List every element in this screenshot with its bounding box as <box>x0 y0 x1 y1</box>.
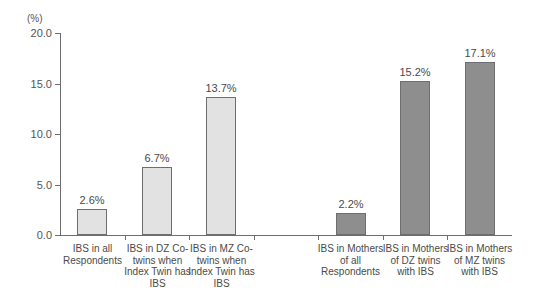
y-axis-tick-label-wrap: 5.0 <box>0 179 52 191</box>
x-axis-category-label-line: IBS in DZ Co- <box>123 243 192 255</box>
x-axis-category-label-line: IBS in MZ Co- <box>187 243 256 255</box>
x-axis-category-label: IBS in Mothersof allRespondents <box>316 243 385 278</box>
bar <box>400 81 430 235</box>
y-axis-tick-label-wrap: 0.0 <box>0 229 52 241</box>
bar-value-label: 2.2% <box>321 198 381 210</box>
x-axis-category-label-line: of DZ twins <box>381 255 450 267</box>
bar-value-label: 15.2% <box>385 66 445 78</box>
y-axis-tick-label: 15.0 <box>2 78 52 90</box>
x-axis-category-label-line: IBS in Mothers <box>316 243 385 255</box>
bar-chart: (%) 0.05.010.015.020.0 2.6%6.7%13.7%2.2%… <box>0 0 533 301</box>
x-axis-tick <box>447 235 448 240</box>
y-axis-unit-label: (%) <box>27 13 43 24</box>
x-axis-tick <box>318 235 319 240</box>
bar <box>142 167 172 235</box>
x-axis-category-label: IBS in allRespondents <box>58 243 127 266</box>
x-axis-category-label-line: with IBS <box>445 266 514 278</box>
x-axis-line <box>60 235 512 236</box>
x-axis-category-label-line: with IBS <box>381 266 450 278</box>
x-axis-category-label-line: twins when <box>187 255 256 267</box>
x-axis-category-label-line: IBS in Mothers <box>445 243 514 255</box>
y-axis-tick-label-wrap: 20.0 <box>0 27 52 39</box>
y-axis-tick-label: 10.0 <box>2 128 52 140</box>
x-axis-category-label-line: of MZ twins <box>445 255 514 267</box>
y-axis-tick-label-wrap: 15.0 <box>0 78 52 90</box>
y-axis-tick <box>55 33 60 34</box>
x-axis-tick <box>254 235 255 240</box>
bar <box>206 97 236 235</box>
y-axis-tick-label-wrap: 10.0 <box>0 128 52 140</box>
bar-value-label: 6.7% <box>127 152 187 164</box>
y-axis-tick <box>55 235 60 236</box>
y-axis-line <box>60 33 61 236</box>
x-axis-category-label-line: Respondents <box>58 255 127 267</box>
y-axis-tick <box>55 185 60 186</box>
x-axis-tick <box>383 235 384 240</box>
bar-value-label: 2.6% <box>62 194 122 206</box>
bar <box>465 62 495 235</box>
x-axis-category-label-line: Index Twin has <box>187 266 256 278</box>
x-axis-category-label-line: twins when <box>123 255 192 267</box>
bar-value-label: 17.1% <box>450 47 510 59</box>
x-axis-category-label-line: IBS in Mothers <box>381 243 450 255</box>
x-axis-category-label-line: IBS <box>123 278 192 290</box>
x-axis-category-label: IBS in Mothersof MZ twinswith IBS <box>445 243 514 278</box>
bar <box>77 209 107 235</box>
x-axis-category-label: IBS in MZ Co-twins whenIndex Twin hasIBS <box>187 243 256 289</box>
bar <box>336 213 366 235</box>
x-axis-category-label-line: Index Twin has <box>123 266 192 278</box>
y-axis-tick <box>55 84 60 85</box>
x-axis-category-label-line: IBS <box>187 278 256 290</box>
x-axis-category-label: IBS in Mothersof DZ twinswith IBS <box>381 243 450 278</box>
x-axis-category-label-line: of all <box>316 255 385 267</box>
x-axis-tick <box>125 235 126 240</box>
bar-value-label: 13.7% <box>191 82 251 94</box>
y-axis-tick-label: 5.0 <box>2 179 52 191</box>
x-axis-category-label: IBS in DZ Co-twins whenIndex Twin hasIBS <box>123 243 192 289</box>
y-axis-tick <box>55 134 60 135</box>
x-axis-category-label-line: Respondents <box>316 266 385 278</box>
x-axis-category-label-line: IBS in all <box>58 243 127 255</box>
y-axis-tick-label: 0.0 <box>2 229 52 241</box>
y-axis-tick-label: 20.0 <box>2 27 52 39</box>
x-axis-tick <box>189 235 190 240</box>
